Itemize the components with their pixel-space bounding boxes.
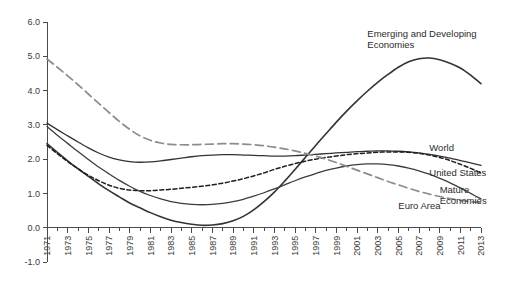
x-tick-label: 1985 xyxy=(187,236,197,256)
series-line-world xyxy=(47,123,481,165)
x-tick-label: 1993 xyxy=(270,236,280,256)
x-tick-label: 2007 xyxy=(414,236,424,256)
y-tick-label: 5.0 xyxy=(27,51,40,61)
y-tick-label: 3.0 xyxy=(27,120,40,130)
y-tick-label: 6.0 xyxy=(27,17,40,27)
x-tick-label: 1999 xyxy=(332,236,342,256)
y-tick-label: 2.0 xyxy=(27,154,40,164)
x-tick-label: 2013 xyxy=(476,236,486,256)
y-axis-ticks: 6.05.04.03.02.01.00.0-1.0 xyxy=(24,17,47,267)
x-tick-label: 2005 xyxy=(394,236,404,256)
x-tick-label: 1983 xyxy=(166,236,176,256)
line-chart: 6.05.04.03.02.01.00.0-1.0 19711973197519… xyxy=(0,0,510,283)
series-label-united-states: United States xyxy=(429,167,486,178)
y-tick-label: 4.0 xyxy=(27,86,40,96)
x-tick-label: 1981 xyxy=(146,236,156,256)
x-tick-label: 1973 xyxy=(63,236,73,256)
x-tick-label: 2003 xyxy=(373,236,383,256)
series-labels: Emerging and DevelopingEconomiesWorldUni… xyxy=(367,28,487,210)
chart-container: 6.05.04.03.02.01.00.0-1.0 19711973197519… xyxy=(0,0,510,283)
series-line-united-states xyxy=(47,145,481,190)
series-label-world: World xyxy=(429,142,454,153)
x-tick-label: 1987 xyxy=(208,236,218,256)
x-tick-label: 2009 xyxy=(435,236,445,256)
series-label-mature-economies: MatureEconomies xyxy=(440,184,487,206)
x-tick-label: 1975 xyxy=(84,236,94,256)
x-tick-label: 1997 xyxy=(311,236,321,256)
x-tick-label: 1979 xyxy=(125,236,135,256)
x-axis-ticks: 1971197319751977197919811983198519871989… xyxy=(42,228,486,256)
y-tick-label: 0.0 xyxy=(27,223,40,233)
x-tick-label: 1991 xyxy=(249,236,259,256)
x-tick-label: 2001 xyxy=(352,236,362,256)
x-tick-label: 1989 xyxy=(228,236,238,256)
series-line-euro-area xyxy=(47,59,481,203)
y-tick-label: 1.0 xyxy=(27,189,40,199)
x-tick-label: 1995 xyxy=(290,236,300,256)
y-tick-label: -1.0 xyxy=(24,257,40,267)
series-label-euro-area: Euro Area xyxy=(398,200,441,211)
x-tick-label: 2011 xyxy=(456,236,466,255)
series-label-emerging-and-developing-economies: Emerging and DevelopingEconomies xyxy=(367,28,476,50)
x-tick-label: 1977 xyxy=(104,236,114,256)
